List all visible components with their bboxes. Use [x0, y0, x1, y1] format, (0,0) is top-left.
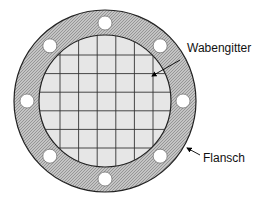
bolt-hole [98, 16, 112, 30]
flange-diagram: Wabengitter Flansch [0, 0, 254, 205]
flange-leader-line [187, 148, 200, 155]
flange-label: Flansch [203, 151, 245, 165]
bolt-hole [43, 39, 57, 53]
bolt-hole [98, 172, 112, 186]
bolt-hole [153, 149, 167, 163]
bolt-hole [43, 149, 57, 163]
bolt-hole [176, 94, 190, 108]
bolt-hole [20, 94, 34, 108]
grid-label: Wabengitter [187, 41, 251, 55]
bolt-hole [153, 39, 167, 53]
